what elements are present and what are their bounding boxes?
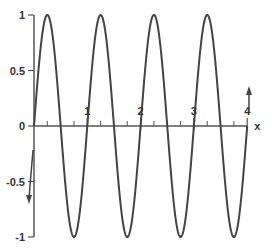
down-arrow-head <box>26 195 32 204</box>
x-axis-label: x <box>254 120 261 132</box>
down-arrow-shaft <box>29 150 33 198</box>
x-tick-label: 2 <box>138 105 144 117</box>
x-tick-label: 3 <box>191 105 197 117</box>
up-arrow-head <box>246 86 252 95</box>
x-tick-label: 4 <box>244 105 251 117</box>
y-tick-label: 0.5 <box>10 65 25 77</box>
sine-wave-chart: 10.50-0.5-11234x <box>0 0 270 250</box>
x-tick-label: 1 <box>84 105 90 117</box>
y-tick-label: 0 <box>19 120 25 132</box>
y-tick-label: -1 <box>15 231 25 243</box>
y-tick-label: 1 <box>19 9 25 21</box>
y-tick-label: -0.5 <box>6 176 25 188</box>
